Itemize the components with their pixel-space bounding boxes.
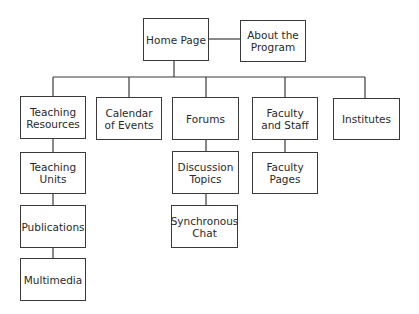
node-label: About the Program — [243, 29, 303, 53]
node-calendar-of-events: Calendar of Events — [96, 97, 162, 140]
node-faculty-and-staff: Faculty and Staff — [252, 97, 318, 140]
node-label: Publications — [21, 221, 84, 233]
node-faculty-pages: Faculty Pages — [252, 152, 318, 194]
node-teaching-resources: Teaching Resources — [20, 96, 86, 139]
node-label: Institutes — [342, 113, 391, 125]
node-label: Faculty Pages — [255, 161, 315, 185]
node-publications: Publications — [20, 205, 86, 248]
node-institutes: Institutes — [333, 98, 400, 140]
node-multimedia: Multimedia — [20, 258, 86, 301]
node-label: Forums — [186, 113, 225, 125]
node-home-page: Home Page — [143, 18, 209, 61]
node-label: Teaching Resources — [23, 106, 83, 130]
node-discussion-topics: Discussion Topics — [172, 151, 239, 194]
node-about-the-program: About the Program — [240, 20, 306, 62]
node-label: Discussion Topics — [175, 161, 236, 185]
node-label: Faculty and Staff — [255, 107, 315, 131]
node-forums: Forums — [172, 97, 239, 140]
node-label: Teaching Units — [23, 161, 83, 185]
node-teaching-units: Teaching Units — [20, 152, 86, 194]
node-label: Synchronous Chat — [171, 215, 239, 239]
node-label: Calendar of Events — [99, 107, 159, 131]
node-synchronous-chat: Synchronous Chat — [171, 205, 238, 248]
site-map-diagram: Home Page About the Program Teaching Res… — [0, 0, 419, 314]
node-label: Home Page — [146, 34, 206, 46]
node-label: Multimedia — [24, 274, 82, 286]
